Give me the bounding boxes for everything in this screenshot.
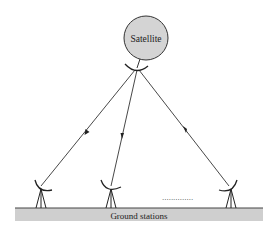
link-station-2 xyxy=(111,70,137,186)
more-stations-ellipsis: .............. xyxy=(162,193,193,202)
diagram-canvas: Ground stations Satellite xyxy=(0,0,277,233)
ground-strip: Ground stations xyxy=(15,208,263,221)
arrow-down-icon xyxy=(183,126,187,133)
ground-station-1 xyxy=(35,180,52,208)
ground-stations-label: Ground stations xyxy=(110,211,168,221)
satellite-dish-icon xyxy=(125,64,148,71)
direction-arrows xyxy=(85,126,188,139)
satellite-ground-diagram: Ground stations Satellite xyxy=(0,0,277,233)
satellite: Satellite xyxy=(124,16,168,71)
satellite-label: Satellite xyxy=(130,34,161,44)
link-station-1 xyxy=(41,70,135,186)
arrow-down-icon xyxy=(121,133,125,139)
dish-antenna-icon xyxy=(35,180,52,191)
downlinks xyxy=(41,70,229,186)
